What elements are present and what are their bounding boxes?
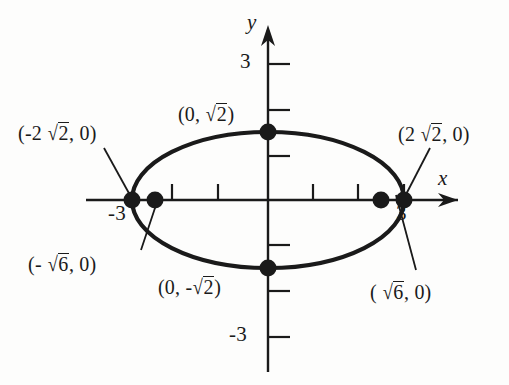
label-left-vertex-coef: -2 <box>25 122 47 144</box>
label-right-focus-open: ( <box>370 281 382 303</box>
point-bottom-covertex <box>260 260 277 277</box>
radical-group: √6 <box>47 253 69 275</box>
label-bottom-covertex: (0, -√2) <box>158 276 221 298</box>
radical-group: √6 <box>382 281 404 303</box>
sqrt-sign-icon: √ <box>48 123 58 144</box>
label-right-vertex: (2 √2, 0) <box>398 123 470 145</box>
y-tick-label-3: 3 <box>240 51 251 72</box>
y-axis-label: y <box>247 12 257 33</box>
point-left-focus <box>147 192 164 209</box>
radical-group: √2 <box>205 103 227 125</box>
label-left-vertex-radicand: 2 <box>58 122 69 143</box>
label-left-focus-coef: - <box>35 253 47 275</box>
ellipse-figure: y x 3 -3 -3 3 (-2 √2, 0) (0, √2) (2 √2, … <box>0 0 509 385</box>
label-left-vertex-open: ( <box>18 122 25 144</box>
y-tick-label-minus-3: -3 <box>229 324 247 345</box>
label-left-focus-close: , 0) <box>69 253 96 275</box>
label-left-vertex: (-2 √2, 0) <box>18 122 97 144</box>
axis-arrowheads <box>261 25 458 207</box>
sqrt-sign-icon: √ <box>421 124 431 145</box>
label-right-vertex-radicand: 2 <box>431 123 442 144</box>
label-left-focus-radicand: 6 <box>58 253 69 274</box>
x-axis-label: x <box>438 168 448 189</box>
label-right-focus: ( √6, 0) <box>370 281 431 303</box>
label-right-vertex-coef: 2 <box>405 123 420 145</box>
radical-group: √2 <box>47 122 69 144</box>
sqrt-sign-icon: √ <box>193 277 203 298</box>
point-right-focus <box>373 192 390 209</box>
point-top-covertex <box>260 124 277 141</box>
label-right-vertex-open: ( <box>398 123 405 145</box>
sqrt-sign-icon: √ <box>383 282 393 303</box>
sqrt-sign-icon: √ <box>48 254 58 275</box>
label-top-covertex-close: ) <box>227 103 234 125</box>
x-tick-label-minus-3: -3 <box>108 203 126 224</box>
label-top-covertex: (0, √2) <box>178 103 234 125</box>
radical-group: √2 <box>192 276 214 298</box>
label-bottom-covertex-radicand: 2 <box>203 276 214 297</box>
label-right-vertex-close: , 0) <box>442 123 469 145</box>
label-right-focus-close: , 0) <box>404 281 431 303</box>
radical-group: √2 <box>420 123 442 145</box>
sqrt-sign-icon: √ <box>206 104 216 125</box>
label-bottom-covertex-close: ) <box>214 276 221 298</box>
label-right-focus-radicand: 6 <box>393 281 404 302</box>
x-axis-ticks <box>172 184 404 200</box>
label-left-focus-open: ( <box>28 253 35 275</box>
label-top-covertex-radicand: 2 <box>216 103 227 124</box>
label-bottom-covertex-open: (0, <box>158 276 185 298</box>
label-bottom-covertex-coef: - <box>185 276 192 298</box>
point-left-vertex <box>124 192 141 209</box>
label-left-vertex-close: , 0) <box>69 122 96 144</box>
label-top-covertex-open: (0, <box>178 103 205 125</box>
x-tick-label-3: 3 <box>396 203 407 224</box>
label-left-focus: (- √6, 0) <box>28 253 96 275</box>
graph-canvas <box>0 0 509 385</box>
